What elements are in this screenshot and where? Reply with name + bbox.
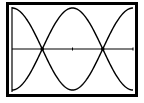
intersection-point bbox=[101, 47, 105, 51]
intersection-point bbox=[40, 47, 44, 51]
graph-plot bbox=[0, 0, 144, 103]
calculator-graph-screen bbox=[0, 0, 144, 103]
